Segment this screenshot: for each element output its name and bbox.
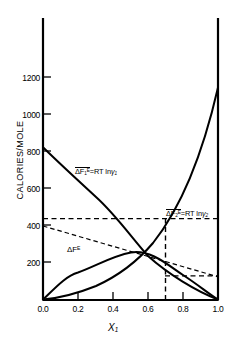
xtick-label-1.0: 1.0: [204, 304, 232, 314]
chart-canvas: [0, 0, 247, 343]
annotation-1-gamma: γ1: [111, 167, 117, 176]
annotation-partial-molar-1: ΔF1E=RT lnγ1: [75, 167, 117, 177]
curve-partial-molar-2: [43, 88, 218, 300]
ytick-label-200: 200: [0, 258, 40, 268]
excess-free-energy-chart: 200 400 600 800 1000 1200 0.0 0.2 0.4 0.…: [0, 0, 247, 343]
ytick-label-400: 400: [0, 221, 40, 231]
annotation-1-equation: =RT ln: [90, 167, 111, 176]
xtick-label-0.8: 0.8: [169, 304, 197, 314]
annotation-2-equation: =RT ln: [181, 209, 202, 218]
annotation-1-symbol: ΔF1E: [75, 167, 90, 177]
xtick-label-0.4: 0.4: [99, 304, 127, 314]
xtick-label-0.2: 0.2: [64, 304, 92, 314]
xtick-label-0.0: 0.0: [29, 304, 57, 314]
annotation-2-gamma: γ2: [202, 209, 208, 218]
y-axis-title: CALORIES/MOLE: [15, 112, 25, 208]
xtick-label-0.6: 0.6: [134, 304, 162, 314]
annotation-3-symbol: ΔFE: [67, 245, 80, 254]
y-axis-ticks: [43, 77, 51, 262]
ytick-label-1200: 1200: [0, 73, 40, 83]
annotation-excess-free-energy: ΔFE: [67, 245, 80, 254]
x-axis-title: X1: [108, 322, 118, 333]
annotation-2-symbol: ΔF2E: [166, 209, 181, 219]
x-axis-ticks: [43, 292, 218, 300]
annotation-partial-molar-2: ΔF2E=RT lnγ2: [166, 209, 208, 219]
